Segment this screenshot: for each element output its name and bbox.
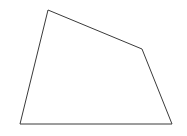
polygon-svg <box>0 0 187 136</box>
irregular-polygon-shape <box>20 10 172 124</box>
figure-canvas <box>0 0 187 136</box>
